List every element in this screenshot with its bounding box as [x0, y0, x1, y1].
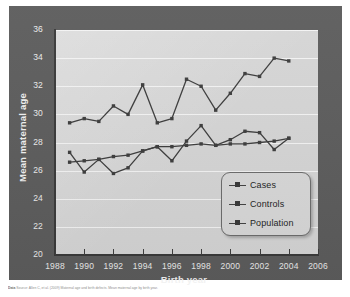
y-axis-line — [54, 29, 56, 256]
legend-marker-icon — [229, 180, 246, 190]
series-line-cases — [70, 58, 289, 123]
x-axis-tick — [172, 249, 173, 255]
x-axis-tick — [113, 249, 114, 255]
x-axis-line — [54, 254, 319, 256]
data-point-marker — [112, 172, 115, 175]
chart-panel: 363432302826242220 Mean maternal age 198… — [9, 6, 342, 280]
data-point-marker — [126, 153, 129, 156]
data-point-marker — [287, 59, 290, 62]
data-point-marker — [112, 104, 115, 107]
legend-item-population[interactable]: Population — [229, 216, 294, 230]
caption-prefix: Data — [8, 286, 15, 290]
data-point-marker — [185, 78, 188, 81]
x-axis-tick — [55, 249, 56, 255]
x-axis-tick — [289, 249, 290, 255]
data-point-marker — [243, 130, 246, 133]
figure-caption: Data Source: Allen C, et al. (2009) Mate… — [8, 286, 344, 295]
data-point-marker — [243, 72, 246, 75]
data-point-marker — [141, 149, 144, 152]
data-point-marker — [83, 117, 86, 120]
data-point-marker — [229, 142, 232, 145]
data-point-marker — [258, 131, 261, 134]
y-axis-tick-label: 20 — [33, 250, 43, 259]
data-point-marker — [199, 85, 202, 88]
data-point-marker — [185, 144, 188, 147]
data-point-marker — [170, 145, 173, 148]
legend-label: Cases — [250, 180, 276, 190]
data-point-marker — [126, 113, 129, 116]
data-point-marker — [97, 158, 100, 161]
x-axis-tick-label: 2006 — [298, 261, 338, 271]
legend-item-controls[interactable]: Controls — [229, 197, 284, 211]
data-point-marker — [112, 155, 115, 158]
data-point-marker — [243, 142, 246, 145]
y-axis-tick-label: 24 — [33, 194, 43, 203]
legend-marker-icon — [229, 218, 246, 228]
caption-text: Source: Allen C, et al. (2009) Maternal … — [16, 286, 158, 290]
x-axis-tick — [318, 249, 319, 255]
y-axis-tick-label: 22 — [33, 222, 43, 231]
data-point-marker — [272, 56, 275, 59]
data-point-marker — [214, 108, 217, 111]
y-axis-tick-label: 36 — [33, 25, 43, 34]
data-point-marker — [68, 151, 71, 154]
y-axis-tick-label: 30 — [33, 109, 43, 118]
x-axis-tick — [84, 249, 85, 255]
legend[interactable]: Cases Controls Population — [221, 172, 311, 236]
figure-root: 363432302826242220 Mean maternal age 198… — [0, 0, 350, 297]
x-axis-tick — [230, 249, 231, 255]
data-point-marker — [156, 145, 159, 148]
data-point-marker — [83, 170, 86, 173]
legend-item-cases[interactable]: Cases — [229, 178, 276, 192]
x-axis-title: Birth year — [9, 274, 350, 285]
legend-marker-icon — [229, 199, 246, 209]
legend-label: Controls — [250, 199, 284, 209]
data-point-marker — [83, 159, 86, 162]
data-point-marker — [272, 148, 275, 151]
data-point-marker — [126, 166, 129, 169]
x-axis-tick — [260, 249, 261, 255]
data-point-marker — [97, 120, 100, 123]
data-point-marker — [214, 144, 217, 147]
data-point-marker — [258, 141, 261, 144]
data-point-marker — [170, 159, 173, 162]
y-axis-tick-label: 26 — [33, 166, 43, 175]
x-axis-tick — [201, 249, 202, 255]
y-axis-tick-label: 34 — [33, 53, 43, 62]
legend-label: Population — [250, 218, 294, 228]
data-point-marker — [199, 142, 202, 145]
series-line-controls — [70, 126, 289, 174]
data-point-marker — [68, 121, 71, 124]
x-axis-tick — [143, 249, 144, 255]
data-point-marker — [68, 160, 71, 163]
data-point-marker — [199, 124, 202, 127]
data-point-marker — [287, 137, 290, 140]
data-point-marker — [229, 138, 232, 141]
data-point-marker — [156, 121, 159, 124]
data-point-marker — [229, 92, 232, 95]
data-point-marker — [272, 139, 275, 142]
data-point-marker — [185, 139, 188, 142]
y-axis-tick-label: 28 — [33, 138, 43, 147]
data-point-marker — [258, 75, 261, 78]
y-axis-tick-label: 32 — [33, 81, 43, 90]
data-point-marker — [141, 83, 144, 86]
y-axis-tick-labels: 363432302826242220 — [9, 6, 51, 280]
y-axis-title: Mean maternal age — [17, 63, 28, 213]
data-point-marker — [170, 117, 173, 120]
